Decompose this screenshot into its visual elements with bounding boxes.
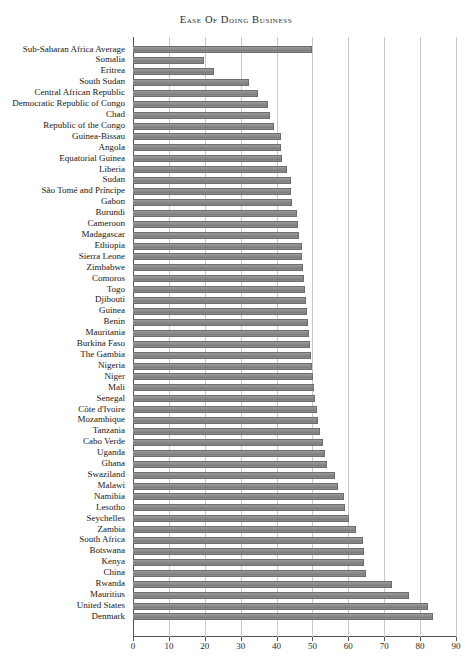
x-tick-label: 90 (452, 641, 461, 651)
category-label: Central African Republic (0, 87, 129, 98)
category-label: Cameroon (0, 218, 129, 229)
category-label: Mauritius (0, 589, 129, 600)
bar-row (133, 404, 456, 415)
bar-row (133, 65, 456, 76)
bar-row (133, 447, 456, 458)
category-label: Togo (0, 284, 129, 295)
bar-row (133, 556, 456, 567)
bar (133, 537, 363, 544)
bar (133, 264, 303, 271)
bar-row (133, 327, 456, 338)
bar (133, 221, 298, 228)
bar (133, 166, 287, 173)
bar-row (133, 360, 456, 371)
x-tick-label: 10 (164, 641, 173, 651)
x-tick-label: 60 (344, 641, 353, 651)
bar-row (133, 44, 456, 55)
category-label: Eritrea (0, 65, 129, 76)
bar-row (133, 305, 456, 316)
category-label: Chad (0, 109, 129, 120)
x-axis-line (133, 636, 456, 637)
category-label: Swaziland (0, 469, 129, 480)
category-label: Guinea-Bissau (0, 131, 129, 142)
category-label: Democratic Republic of Congo (0, 98, 129, 109)
bar (133, 123, 274, 130)
bar (133, 90, 258, 97)
bar-row (133, 262, 456, 273)
bar (133, 373, 313, 380)
bar-row (133, 349, 456, 360)
bar (133, 493, 344, 500)
bar (133, 112, 270, 119)
bar-row (133, 491, 456, 502)
chart-container: Ease of Doing Business Sub-Saharan Afric… (0, 0, 472, 658)
bar (133, 559, 364, 566)
category-label: Côte d'Ivoire (0, 404, 129, 415)
bar-row (133, 600, 456, 611)
bar-row (133, 338, 456, 349)
category-label: Mali (0, 382, 129, 393)
bar (133, 483, 338, 490)
x-tick-label: 50 (308, 641, 317, 651)
bar-row (133, 425, 456, 436)
bar-row (133, 120, 456, 131)
category-label: Gabon (0, 196, 129, 207)
bar (133, 68, 214, 75)
bar (133, 439, 323, 446)
bar-row (133, 414, 456, 425)
category-label: Liberia (0, 164, 129, 175)
bar-row (133, 76, 456, 87)
bar (133, 570, 366, 577)
category-label: Denmark (0, 611, 129, 622)
category-label: Lesotho (0, 502, 129, 513)
bar (133, 275, 304, 282)
bar (133, 319, 308, 326)
category-label: Seychelles (0, 513, 129, 524)
bar (133, 417, 318, 424)
bar-row (133, 294, 456, 305)
bar-row (133, 502, 456, 513)
x-tick-label: 20 (200, 641, 209, 651)
category-label: Burkina Faso (0, 338, 129, 349)
bar (133, 57, 204, 64)
bar (133, 341, 310, 348)
bar-row (133, 589, 456, 600)
category-label: South Sudan (0, 76, 129, 87)
category-label: Tanzania (0, 425, 129, 436)
bar (133, 592, 409, 599)
bar (133, 330, 309, 337)
plot-area: 0102030405060708090 (133, 37, 456, 637)
bar (133, 603, 428, 610)
category-labels-axis: Sub-Saharan Africa AverageSomaliaEritrea… (0, 37, 129, 637)
bar-row (133, 524, 456, 535)
category-label: Burundi (0, 207, 129, 218)
category-label: Djibouti (0, 294, 129, 305)
bar-row (133, 218, 456, 229)
bar-row (133, 131, 456, 142)
category-label: Nigeria (0, 360, 129, 371)
bar-row (133, 513, 456, 524)
category-label: Madagascar (0, 229, 129, 240)
chart-title: Ease of Doing Business (0, 14, 472, 25)
bar-row (133, 567, 456, 578)
bar (133, 461, 327, 468)
bar (133, 613, 433, 620)
x-tick-label: 0 (131, 641, 136, 651)
bar (133, 243, 302, 250)
bar (133, 297, 306, 304)
category-label: São Tomé and Príncipe (0, 185, 129, 196)
bar-row (133, 174, 456, 185)
bar-row (133, 142, 456, 153)
bar (133, 199, 292, 206)
bar (133, 450, 325, 457)
bar-row (133, 316, 456, 327)
bar (133, 548, 364, 555)
bar-row (133, 611, 456, 622)
category-label: Zimbabwe (0, 262, 129, 273)
bar-row (133, 87, 456, 98)
category-label: Malawi (0, 480, 129, 491)
bar (133, 363, 312, 370)
category-label: Angola (0, 142, 129, 153)
bar-row (133, 436, 456, 447)
bar-row (133, 284, 456, 295)
